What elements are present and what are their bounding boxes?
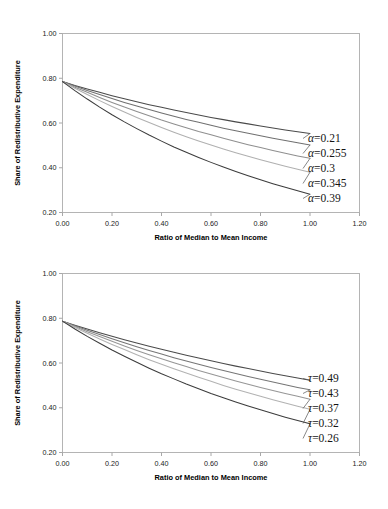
legend-label-3: τ=0.32 [308,417,339,429]
alpha-x-tick-group: 0.000.200.400.600.801.001.20 [56,213,367,228]
x-tick-label: 1.20 [353,219,367,228]
alpha-y-axis-title: Share of Redistributive Expenditure [13,60,22,186]
y-tick-label: 0.40 [43,163,57,172]
series-line-2 [63,82,311,159]
x-tick-label: 0.40 [155,459,169,468]
legend-label-1: α=0.255 [308,147,347,159]
tau-y-tick-group: 0.200.400.600.801.00 [43,269,63,457]
alpha-legend-group: α=0.21α=0.255α=0.3α=0.345α=0.39 [308,132,347,204]
legend-label-0: τ=0.49 [308,372,339,384]
x-tick-label: 0.40 [155,219,169,228]
x-tick-label: 1.00 [303,459,317,468]
y-tick-label: 0.60 [43,119,57,128]
x-tick-label: 0.60 [204,459,218,468]
x-tick-label: 0.80 [254,459,268,468]
x-tick-label: 1.00 [303,219,317,228]
series-line-0 [63,321,311,380]
alpha-chart-svg: 0.200.400.600.801.00 0.000.200.400.600.8… [0,0,388,254]
tau-y-axis-title: Share of Redistributive Expenditure [13,300,22,426]
alpha-curve-group [63,82,311,195]
y-tick-label: 0.80 [43,74,57,83]
chart-panel-tau: 0.200.400.600.801.00 0.000.200.400.600.8… [0,255,388,509]
x-tick-label: 0.60 [204,219,218,228]
figure-page: 0.200.400.600.801.00 0.000.200.400.600.8… [0,0,388,509]
y-tick-label: 1.00 [43,269,57,278]
tau-x-axis-title: Ratio of Median to Mean Income [155,473,268,482]
alpha-x-axis-title: Ratio of Median to Mean Income [155,233,268,242]
y-tick-label: 0.40 [43,403,57,412]
legend-label-2: τ=0.37 [308,402,339,414]
legend-label-3: α=0.345 [308,177,347,189]
legend-label-0: α=0.21 [308,132,341,144]
alpha-y-tick-group: 0.200.400.600.801.00 [43,29,63,217]
legend-label-1: τ=0.43 [308,387,339,399]
x-tick-label: 1.20 [353,459,367,468]
legend-label-4: α=0.39 [308,192,341,204]
x-tick-label: 0.00 [56,219,70,228]
y-tick-label: 1.00 [43,29,57,38]
y-tick-label: 0.60 [43,359,57,368]
x-tick-label: 0.80 [254,219,268,228]
chart-panel-alpha: 0.200.400.600.801.00 0.000.200.400.600.8… [0,0,388,254]
tau-curve-group [63,321,311,424]
series-line-3 [63,82,311,173]
tau-x-tick-group: 0.000.200.400.600.801.001.20 [56,453,367,468]
legend-label-2: α=0.3 [308,162,335,174]
tau-legend-group: τ=0.49τ=0.43τ=0.37τ=0.32τ=0.26 [308,372,339,444]
x-tick-label: 0.00 [56,459,70,468]
y-tick-label: 0.20 [43,208,57,217]
series-line-1 [63,82,311,145]
y-tick-label: 0.80 [43,314,57,323]
x-tick-label: 0.20 [105,459,119,468]
x-tick-label: 0.20 [105,219,119,228]
tau-chart-svg: 0.200.400.600.801.00 0.000.200.400.600.8… [0,255,388,509]
y-tick-label: 0.20 [43,448,57,457]
legend-label-4: τ=0.26 [308,432,339,444]
